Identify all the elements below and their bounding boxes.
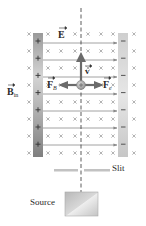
- cross-icon: [86, 134, 89, 137]
- cross-icon: [132, 83, 135, 86]
- cross-icon: [59, 66, 62, 69]
- cross-icon: [73, 66, 76, 69]
- cross-icon: [132, 134, 135, 137]
- slit: [54, 169, 110, 172]
- cross-icon: [73, 134, 76, 137]
- cross-icon: [99, 49, 102, 52]
- cross-icon: [46, 66, 49, 69]
- cross-icon: [73, 32, 76, 35]
- velocity-selector-diagram: E v FB Fe Bin Slit Source: [0, 0, 146, 226]
- cross-icon: [111, 151, 114, 154]
- cross-icon: [99, 66, 102, 69]
- cross-icon: [86, 100, 89, 103]
- source-box: [65, 192, 98, 216]
- cross-icon: [132, 32, 135, 35]
- cross-icon: [132, 66, 135, 69]
- magnetic-force-subscript: B: [53, 85, 57, 91]
- cross-icon: [99, 32, 102, 35]
- cross-icon: [73, 151, 76, 154]
- cross-icon: [86, 49, 89, 52]
- cross-icon: [27, 32, 30, 35]
- cross-icon: [73, 117, 76, 120]
- cross-icon: [27, 100, 30, 103]
- cross-icon: [132, 100, 135, 103]
- cross-icon: [99, 117, 102, 120]
- cross-icon: [111, 32, 114, 35]
- cross-icon: [59, 134, 62, 137]
- cross-icon: [73, 100, 76, 103]
- electric-force-label: Fe: [103, 80, 112, 91]
- cross-icon: [132, 49, 135, 52]
- cross-icon: [111, 49, 114, 52]
- cross-icon: [86, 117, 89, 120]
- cross-icon: [111, 134, 114, 137]
- cross-icon: [99, 100, 102, 103]
- cross-icon: [111, 66, 114, 69]
- magnetic-field-label: Bin: [7, 87, 18, 98]
- magnetic-force-arrow-icon: [58, 81, 77, 89]
- cross-icon: [27, 83, 30, 86]
- electric-force-arrow-icon: [85, 81, 104, 89]
- cross-icon: [73, 49, 76, 52]
- velocity-label: v: [85, 67, 90, 76]
- electric-force-subscript: e: [109, 85, 112, 91]
- cross-icon: [46, 49, 49, 52]
- magnetic-field-subscript: in: [14, 92, 19, 98]
- cross-icon: [86, 151, 89, 154]
- cross-icon: [59, 117, 62, 120]
- cross-icon: [46, 117, 49, 120]
- cross-icon: [27, 151, 30, 154]
- cross-icon: [59, 100, 62, 103]
- negative-plate: [118, 33, 128, 157]
- cross-icon: [99, 134, 102, 137]
- cross-icon: [59, 49, 62, 52]
- cross-icon: [111, 117, 114, 120]
- cross-icon: [27, 49, 30, 52]
- cross-icon: [132, 151, 135, 154]
- cross-icon: [59, 151, 62, 154]
- cross-icon: [99, 151, 102, 154]
- magnetic-field-symbol: B: [7, 86, 14, 97]
- slit-label: Slit: [112, 164, 125, 173]
- cross-icon: [86, 32, 89, 35]
- cross-icon: [46, 151, 49, 154]
- cross-icon: [111, 100, 114, 103]
- cross-icon: [46, 134, 49, 137]
- diagram-canvas: [0, 0, 146, 226]
- cross-icon: [27, 117, 30, 120]
- source-label: Source: [30, 198, 55, 207]
- magnetic-force-label: FB: [47, 80, 57, 91]
- cross-icon: [27, 134, 30, 137]
- charged-particle: [77, 81, 86, 90]
- cross-icon: [27, 66, 30, 69]
- cross-icon: [46, 100, 49, 103]
- cross-icon: [46, 32, 49, 35]
- electric-field-label: E: [58, 30, 65, 40]
- cross-icon: [132, 117, 135, 120]
